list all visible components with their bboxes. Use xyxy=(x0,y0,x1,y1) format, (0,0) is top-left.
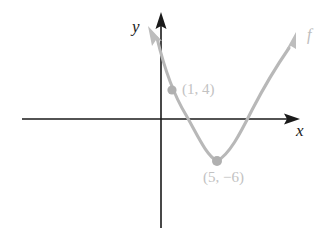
y-axis-label: y xyxy=(132,18,140,35)
graph-figure: y x f (1, 4) (5, −6) xyxy=(0,0,335,236)
data-point-1-4 xyxy=(167,85,176,94)
parabola-curve xyxy=(157,38,289,161)
curve-right-arrowhead xyxy=(286,32,296,50)
graph-canvas xyxy=(0,0,335,236)
point-label-1-4: (1, 4) xyxy=(182,82,215,97)
data-point-5-neg6 xyxy=(212,156,222,166)
x-axis-label: x xyxy=(296,122,304,139)
curve-function-label: f xyxy=(307,27,311,43)
point-label-5-neg6: (5, −6) xyxy=(203,170,244,185)
curve-left-arrowhead xyxy=(148,26,162,46)
